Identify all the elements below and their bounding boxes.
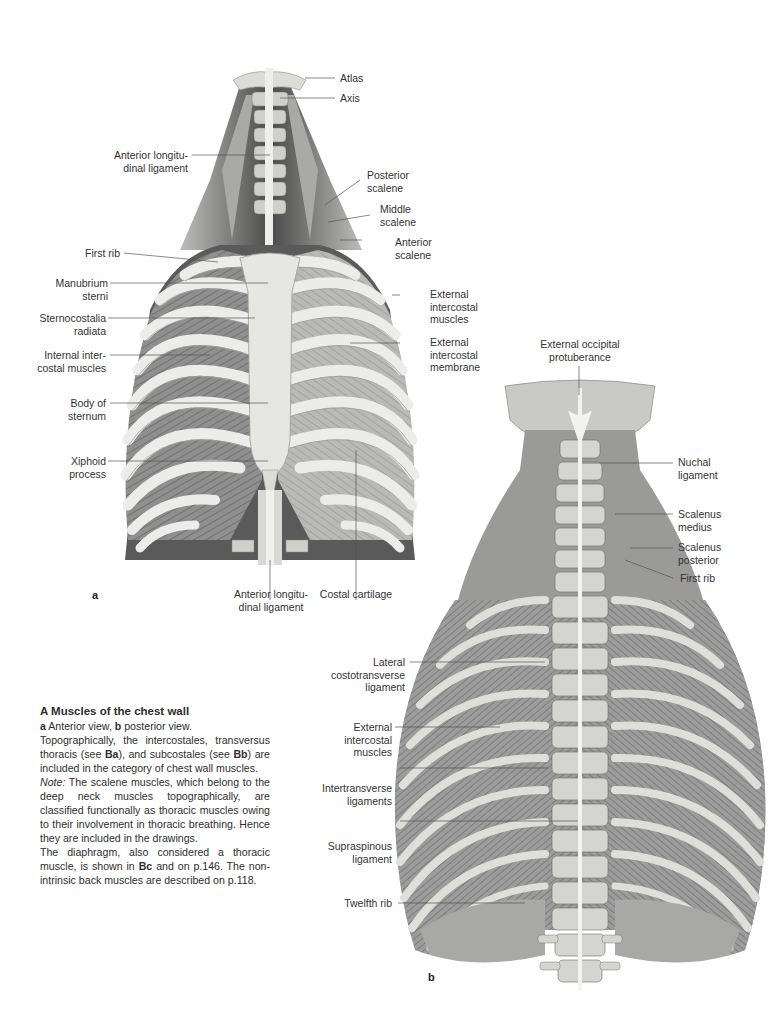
label-line: External occipital (530, 338, 630, 351)
label-body-of-sternum: Body of sternum (68, 397, 106, 422)
figure-b-letter: b (428, 971, 435, 983)
label-posterior-scalene: Posterior scalene (367, 169, 409, 194)
label-line: Middle (380, 203, 416, 216)
label-line: Nuchal (678, 456, 718, 469)
label-line: dinal ligament (224, 601, 318, 614)
label-line: External (430, 336, 480, 349)
label-line: intercostal (344, 734, 392, 747)
caption-paragraph-1: Topographically, the intercostales, tran… (40, 733, 270, 775)
label-line: protuberance (530, 351, 630, 364)
label-anterior-longitudinal-ligament-bottom: Anterior longitu- dinal ligament (224, 588, 318, 613)
label-line: sternum (68, 410, 106, 423)
label-line: ligament (678, 469, 718, 482)
label-line: Anterior longitu- (114, 149, 188, 162)
label-manubrium-sterni: Manubrium sterni (55, 277, 108, 302)
label-line: sterni (55, 290, 108, 303)
label-line: Anterior (395, 236, 432, 249)
figure-caption: A Muscles of the chest wall a Anterior v… (40, 704, 270, 887)
caption-text: The scalene muscles, which belong to the… (40, 776, 270, 844)
note-label: Note: (40, 776, 65, 788)
label-first-rib-a: First rib (85, 247, 120, 260)
label-line: ligaments (322, 795, 392, 808)
label-xiphoid-process: Xiphoid process (69, 455, 106, 480)
label-external-intercostal-muscles-a: External intercostal muscles (430, 288, 478, 326)
caption-text: posterior view. (121, 720, 192, 732)
label-line: Posterior (367, 169, 409, 182)
caption-paragraph-3: The diaphragm, also considered a thoraci… (40, 845, 270, 887)
label-line: ligament (328, 853, 392, 866)
label-line: medius (678, 521, 721, 534)
label-line: scalene (395, 249, 432, 262)
cross-reference: Bb (233, 748, 247, 760)
label-line: dinal ligament (114, 162, 188, 175)
label-lateral-costotransverse-ligament: Lateral costotransverse ligament (331, 656, 405, 694)
label-external-intercostal-membrane: External intercostal membrane (430, 336, 480, 374)
figure-a-art (125, 68, 415, 565)
caption-text: ), and subcostales (see (118, 748, 233, 760)
label-axis: Axis (340, 92, 360, 105)
label-line: Intertransverse (322, 782, 392, 795)
label-line: Manubrium (55, 277, 108, 290)
label-line: First rib (680, 572, 715, 585)
label-line: First rib (85, 247, 120, 260)
label-line: Supraspinous (328, 840, 392, 853)
label-line: Xiphoid (69, 455, 106, 468)
cross-reference: Bc (139, 860, 153, 872)
label-line: Anterior longitu- (224, 588, 318, 601)
label-line: Internal inter- (37, 349, 106, 362)
label-line: External (344, 721, 392, 734)
label-line: scalene (380, 216, 416, 229)
label-line: intercostal (430, 349, 480, 362)
caption-title: A Muscles of the chest wall (40, 704, 270, 718)
label-line: Body of (68, 397, 106, 410)
label-intertransverse-ligaments: Intertransverse ligaments (322, 782, 392, 807)
label-line: posterior (678, 554, 721, 567)
label-first-rib-b: First rib (680, 572, 715, 585)
label-external-intercostal-muscles-b: External intercostal muscles (344, 721, 392, 759)
label-external-occipital-protuberance: External occipital protuberance (530, 338, 630, 363)
label-middle-scalene: Middle scalene (380, 203, 416, 228)
label-line: Twelfth rib (344, 897, 392, 910)
cross-reference: Ba (105, 748, 119, 760)
label-sternocostalia-radiata: Sternocostalia radiata (39, 312, 106, 337)
figure-a-letter: a (92, 589, 98, 601)
label-line: Sternocostalia (39, 312, 106, 325)
label-line: ligament (331, 681, 405, 694)
textbook-page: Atlas Axis Anterior longitu- dinal ligam… (0, 0, 770, 1011)
label-line: costal muscles (37, 362, 106, 375)
label-line: Atlas (340, 72, 363, 85)
label-atlas: Atlas (340, 72, 363, 85)
label-anterior-longitudinal-ligament-top: Anterior longitu- dinal ligament (114, 149, 188, 174)
label-line: External (430, 288, 478, 301)
label-line: membrane (430, 361, 480, 374)
label-line: costotransverse (331, 669, 405, 682)
label-line: Lateral (331, 656, 405, 669)
label-costal-cartilage: Costal cartilage (318, 588, 394, 601)
label-line: radiata (39, 325, 106, 338)
label-twelfth-rib: Twelfth rib (344, 897, 392, 910)
label-nuchal-ligament: Nuchal ligament (678, 456, 718, 481)
label-line: scalene (367, 182, 409, 195)
label-line: muscles (344, 746, 392, 759)
label-line: Costal cartilage (318, 588, 394, 601)
label-line: process (69, 468, 106, 481)
caption-paragraph-2: Note: The scalene muscles, which belong … (40, 775, 270, 845)
label-anterior-scalene: Anterior scalene (395, 236, 432, 261)
label-internal-intercostal-muscles: Internal inter- costal muscles (37, 349, 106, 374)
label-line: Axis (340, 92, 360, 105)
label-line: Scalenus (678, 541, 721, 554)
label-line: muscles (430, 313, 478, 326)
caption-views: a Anterior view, b posterior view. (40, 719, 270, 733)
label-scalenus-medius: Scalenus medius (678, 508, 721, 533)
label-line: intercostal (430, 301, 478, 314)
label-scalenus-posterior: Scalenus posterior (678, 541, 721, 566)
label-line: Scalenus (678, 508, 721, 521)
caption-text: Anterior view, (46, 720, 115, 732)
label-supraspinous-ligament: Supraspinous ligament (328, 840, 392, 865)
